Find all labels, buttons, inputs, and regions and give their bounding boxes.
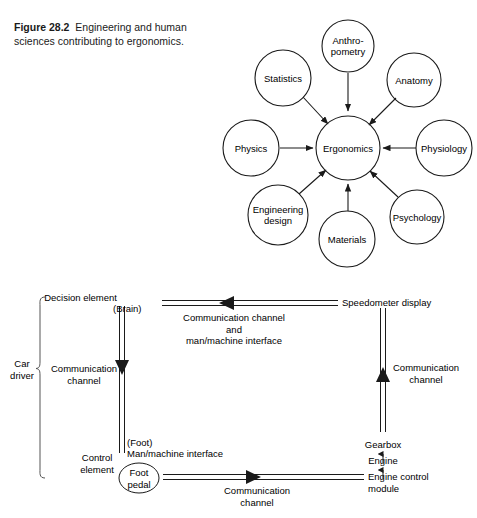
engine-label: Engine <box>368 455 398 467</box>
foot-pedal-line1: Foot <box>129 467 148 478</box>
bottom-channel-arrowhead-right <box>246 470 261 484</box>
figure-page: Figure 28.2 Engineering and human scienc… <box>0 0 477 518</box>
brain-label: (Brain) <box>113 303 142 315</box>
top-communication-channel-label: Communication channelandman/machine inte… <box>183 312 285 347</box>
decision-element-label: Decision element <box>44 292 117 304</box>
car-driver-label-line2: driver <box>10 370 34 381</box>
control-element-label: Controlelement <box>80 452 114 475</box>
gearbox-label: Gearbox <box>365 439 401 451</box>
ecm-line2: module <box>368 483 399 494</box>
bottom-communication-channel-label: Communicationchannel <box>224 485 290 508</box>
foot-pedal-label: Footpedal <box>127 467 150 490</box>
control-element-line1: Control <box>82 452 113 463</box>
right-channel-arrowhead-up <box>376 367 390 382</box>
left-channel-arrowhead-down <box>115 360 129 375</box>
right-channel-line2: channel <box>409 374 442 385</box>
right-communication-channel-label: Communicationchannel <box>393 362 459 385</box>
bottom-channel-line2: channel <box>240 497 273 508</box>
foot-pedal-line2: pedal <box>127 479 150 490</box>
left-communication-channel-label: Communicationchannel <box>51 363 117 386</box>
top-channel-line3: man/machine interface <box>186 335 282 346</box>
car-driver-label-line1: Car <box>14 358 29 369</box>
right-channel-line1: Communication <box>393 362 459 373</box>
top-channel-line1: Communication channel <box>183 312 285 323</box>
decision-element-line1: Decision element <box>44 292 117 303</box>
bottom-channel-line1: Communication <box>224 485 290 496</box>
ecm-line1: Engine control <box>368 471 429 482</box>
car-driver-brace <box>36 297 45 478</box>
top-channel-line2: and <box>226 324 242 335</box>
foot-note-label: (Foot) <box>127 437 152 449</box>
speedometer-display-label: Speedometer display <box>342 297 431 309</box>
left-channel-line1: Communication <box>51 363 117 374</box>
control-loop-diagram <box>0 0 477 518</box>
man-machine-interface-label: Man/machine interface <box>127 448 223 460</box>
control-element-line2: element <box>80 464 114 475</box>
brain-label-text: (Brain) <box>113 303 142 314</box>
left-channel-line2: channel <box>67 375 100 386</box>
top-channel-arrowhead-left <box>219 296 234 310</box>
engine-control-module-label: Engine controlmodule <box>368 471 429 494</box>
car-driver-label: Cardriver <box>10 358 34 381</box>
